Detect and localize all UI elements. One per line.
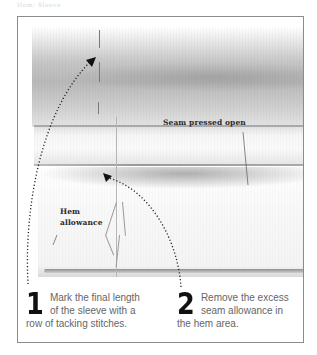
label-hem-line1: Hem	[60, 206, 103, 217]
step-1: 1 Mark the final length of the sleeve wi…	[26, 291, 141, 330]
fabric-shadow	[58, 62, 303, 92]
step-2-number: 2	[177, 291, 195, 316]
page-caption: Hem: Sleeve	[17, 1, 61, 8]
fold-shadow	[38, 167, 303, 189]
tacking-stitch	[99, 30, 100, 48]
step-2: 2 Remove the excess seam allowance in th…	[177, 291, 292, 330]
pressed-seam-band	[34, 125, 303, 165]
label-seam-pressed-open: Seam pressed open	[163, 117, 246, 128]
label-hem-allowance: Hem allowance	[60, 206, 103, 228]
label-hem-line2: allowance	[60, 217, 103, 228]
hem-fold-edge	[44, 269, 303, 273]
tacking-stitch	[99, 62, 100, 82]
tacking-stitch	[98, 102, 99, 114]
sleeve-photo	[18, 17, 303, 277]
seam-edge-bottom	[34, 164, 303, 166]
step-1-number: 1	[26, 291, 44, 316]
